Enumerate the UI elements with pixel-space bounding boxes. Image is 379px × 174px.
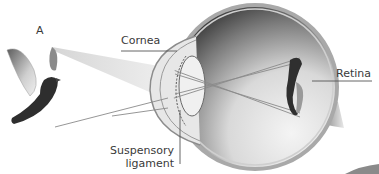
suspensory-label-line1: Suspensory (110, 144, 174, 157)
retina-label: Retina (336, 67, 371, 80)
suspensory-label-line2: ligament (110, 157, 174, 170)
suspensory-ligament-label: Suspensory ligament (110, 144, 174, 170)
external-rays (55, 98, 168, 127)
eye-diagram: A Cornea Retina Suspensory ligament (0, 0, 379, 174)
partial-shape (345, 164, 379, 174)
cornea-label: Cornea (121, 34, 160, 47)
object-label-a: A (36, 24, 44, 37)
eye-illustration (0, 0, 379, 174)
bird-icon (7, 47, 61, 124)
lens (179, 56, 205, 116)
